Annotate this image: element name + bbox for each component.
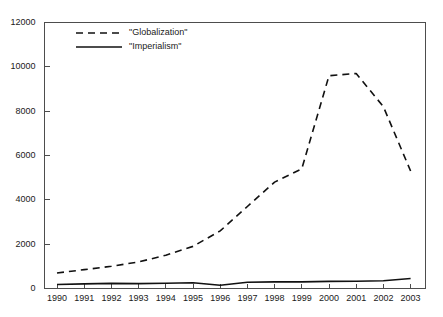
x-axis-tick-labels: 1990199119921993199419951996199719981999… xyxy=(47,293,421,303)
legend-label-globalization: "Globalization" xyxy=(129,27,187,37)
x-tick-label: 1994 xyxy=(156,293,176,303)
x-tick-label: 1999 xyxy=(292,293,312,303)
x-tick-label: 1998 xyxy=(265,293,285,303)
y-tick-label: 10000 xyxy=(10,61,35,71)
x-tick-label: 1990 xyxy=(47,293,67,303)
line-chart: 020004000600080001000012000 199019911992… xyxy=(0,0,443,317)
x-tick-label: 1997 xyxy=(237,293,257,303)
y-tick-label: 4000 xyxy=(15,194,35,204)
x-tick-label: 2003 xyxy=(401,293,421,303)
y-axis-tick-marks xyxy=(45,67,50,244)
chart-canvas: 020004000600080001000012000 199019911992… xyxy=(0,0,443,317)
x-tick-label: 1992 xyxy=(101,293,121,303)
series-line-imperialism xyxy=(57,279,411,286)
y-axis-tick-labels: 020004000600080001000012000 xyxy=(10,17,35,293)
x-tick-label: 1995 xyxy=(183,293,203,303)
y-tick-label: 6000 xyxy=(15,150,35,160)
plot-area-frame xyxy=(45,23,426,289)
x-tick-label: 2000 xyxy=(319,293,339,303)
x-tick-label: 2002 xyxy=(373,293,393,303)
chart-legend: "Globalization""Imperialism" xyxy=(76,27,187,51)
y-tick-label: 0 xyxy=(30,283,35,293)
x-tick-label: 2001 xyxy=(346,293,366,303)
y-tick-label: 2000 xyxy=(15,239,35,249)
series-line-globalization xyxy=(57,73,411,273)
y-tick-label: 12000 xyxy=(10,17,35,27)
data-series-group xyxy=(57,73,411,285)
legend-label-imperialism: "Imperialism" xyxy=(129,41,181,51)
y-tick-label: 8000 xyxy=(15,106,35,116)
x-tick-label: 1991 xyxy=(74,293,94,303)
x-tick-label: 1996 xyxy=(210,293,230,303)
x-tick-label: 1993 xyxy=(129,293,149,303)
